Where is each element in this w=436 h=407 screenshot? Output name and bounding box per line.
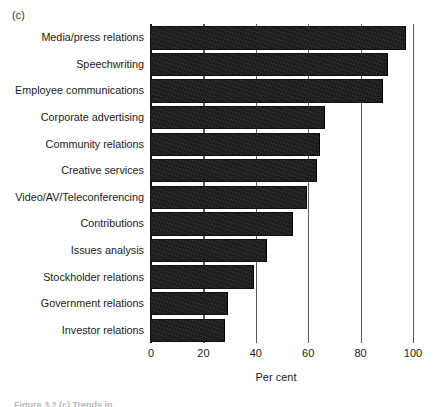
category-label: Corporate advertising [0,111,144,123]
bar-row [151,210,413,237]
bar-row [151,263,413,290]
bar-series [151,24,413,343]
bar [151,239,267,262]
category-axis-labels: Media/press relationsSpeechwritingEmploy… [0,24,144,343]
bar-row [151,157,413,184]
category-label: Creative services [0,164,144,176]
bar [151,265,254,288]
category-label: Media/press relations [0,31,144,43]
category-label: Investor relations [0,324,144,336]
bar-row [151,184,413,211]
bar-row [151,290,413,317]
bar-row [151,130,413,157]
bar [151,53,388,76]
x-tick-label-80: 80 [341,347,381,359]
bar [151,212,293,235]
bar [151,186,307,209]
bar [151,159,317,182]
bar [151,292,228,315]
x-tick-label-40: 40 [236,347,276,359]
x-axis-title: Per cent [206,371,346,383]
category-label: Contributions [0,217,144,229]
plot-area [151,24,413,343]
category-label: Stockholder relations [0,271,144,283]
category-label: Community relations [0,138,144,150]
bar-row [151,316,413,343]
bar [151,79,383,102]
x-tick-label-100: 100 [393,347,433,359]
category-label: Speechwriting [0,58,144,70]
category-label: Employee communications [0,84,144,96]
bar [151,106,325,129]
panel-letter: (c) [12,9,25,21]
category-label: Government relations [0,297,144,309]
figure-caption: Figure 3.2 (c) Trends in [14,400,113,407]
category-label: Video/AV/Teleconferencing [0,191,144,203]
bar-row [151,77,413,104]
bar-row [151,24,413,51]
bar-row [151,104,413,131]
x-axis-tick-labels: 020406080100 [0,347,436,363]
bar-row [151,237,413,264]
bar-row [151,51,413,78]
x-tick-label-20: 20 [183,347,223,359]
category-label: Issues analysis [0,244,144,256]
x-tick-label-0: 0 [131,347,171,359]
bar [151,319,225,342]
x-tick-label-60: 60 [288,347,328,359]
bar [151,26,406,49]
bar [151,133,320,156]
gridline-100 [413,24,414,343]
